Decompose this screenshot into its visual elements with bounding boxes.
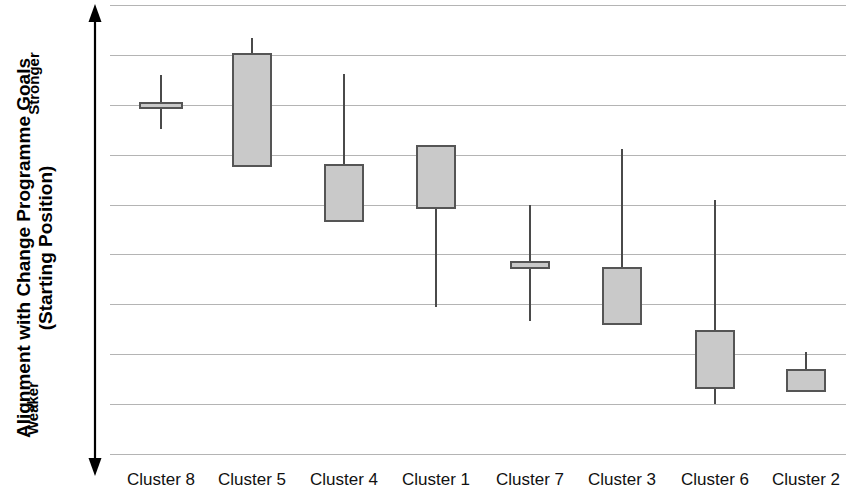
x-axis-tick-label: Cluster 7 (480, 470, 580, 490)
box-plot-item (232, 0, 272, 465)
gridline (110, 354, 846, 355)
gridline (110, 205, 846, 206)
box-plot-chart: Alignment with Change Programme Goals (S… (0, 0, 846, 495)
x-axis-tick-label: Cluster 4 (294, 470, 394, 490)
box-rect (416, 145, 456, 209)
gridline (110, 304, 846, 305)
box-plot-item (139, 0, 183, 465)
axis-high-label-text: Stronger (24, 52, 41, 115)
gridline (110, 454, 846, 455)
axis-high-label: Stronger (0, 75, 93, 92)
x-axis-tick-label: Cluster 6 (665, 470, 765, 490)
plot-area (110, 0, 846, 495)
gridline (110, 404, 846, 405)
x-axis-tick-label: Cluster 3 (572, 470, 672, 490)
gridline (110, 155, 846, 156)
x-axis-labels: Cluster 8Cluster 5Cluster 4Cluster 1Clus… (110, 470, 846, 495)
direction-arrow-icon (86, 4, 104, 476)
x-axis-tick-label: Cluster 1 (386, 470, 486, 490)
axis-low-label-text: Weaker (25, 382, 42, 435)
x-axis-tick-label: Cluster 2 (756, 470, 846, 490)
box-rect (695, 330, 735, 389)
box-rect (232, 53, 272, 167)
box-plot-item (602, 0, 642, 465)
x-axis-tick-label: Cluster 5 (202, 470, 302, 490)
box-plot-item (786, 0, 826, 465)
box-rect (324, 164, 364, 222)
box-plot-item (324, 0, 364, 465)
box-rect (786, 369, 826, 392)
x-axis-tick-label: Cluster 8 (111, 470, 211, 490)
gridline (110, 55, 846, 56)
axis-low-label: Weaker (0, 400, 93, 417)
box-rect (139, 102, 183, 109)
gridline (110, 5, 846, 6)
box-plot-item (416, 0, 456, 465)
gridline (110, 105, 846, 106)
box-plot-item (510, 0, 550, 465)
gridline (110, 254, 846, 255)
box-rect (510, 261, 550, 269)
box-plot-item (695, 0, 735, 465)
box-rect (602, 267, 642, 325)
